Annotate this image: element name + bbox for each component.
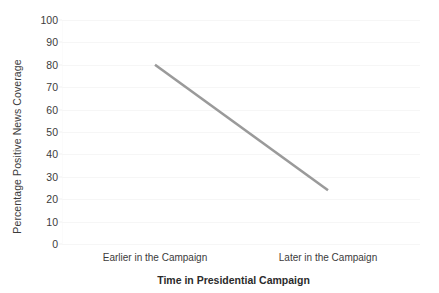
y-axis-tick-mark <box>58 199 62 200</box>
x-axis-category-label-0: Earlier in the Campaign <box>103 253 208 263</box>
y-axis-tick-labels: 1009080706050403020100 <box>28 0 58 293</box>
y-axis-tick-mark <box>58 132 62 133</box>
series-line-chart <box>62 20 420 244</box>
y-axis-tick-label: 30 <box>28 172 58 183</box>
y-axis-tick-label: 90 <box>28 37 58 48</box>
y-axis-tick-mark <box>58 109 62 110</box>
y-axis-tick-label: 20 <box>28 194 58 205</box>
y-axis-tick-mark <box>58 244 62 245</box>
y-axis-tick-label: 70 <box>28 82 58 93</box>
y-axis-tick-label: 100 <box>28 15 58 26</box>
y-axis-tick-mark <box>58 87 62 88</box>
y-axis-title-text: Percentage Positive News Coverage <box>12 59 23 233</box>
x-axis-title-text: Time in Presidential Campaign <box>157 274 310 286</box>
y-axis-tick-mark <box>58 154 62 155</box>
x-axis-title: Time in Presidential Campaign <box>0 275 439 286</box>
gridline <box>62 244 420 245</box>
series-line-0 <box>155 65 328 190</box>
y-axis-tick-mark <box>58 64 62 65</box>
y-axis-tick-label: 10 <box>28 216 58 227</box>
y-axis-tick-mark <box>58 176 62 177</box>
y-axis-tick-label: 0 <box>28 239 58 250</box>
y-axis-tick-label: 40 <box>28 149 58 160</box>
x-axis-category-label-1: Later in the Campaign <box>279 253 377 263</box>
y-axis-tick-mark <box>58 221 62 222</box>
y-axis-tick-mark <box>58 42 62 43</box>
y-axis-tick-label: 50 <box>28 127 58 138</box>
y-axis-tick-label: 60 <box>28 104 58 115</box>
chart-container: Percentage Positive News Coverage 100908… <box>0 0 439 293</box>
y-axis-tick-label: 80 <box>28 60 58 71</box>
y-axis-tick-mark <box>58 20 62 21</box>
plot-area <box>62 20 420 244</box>
